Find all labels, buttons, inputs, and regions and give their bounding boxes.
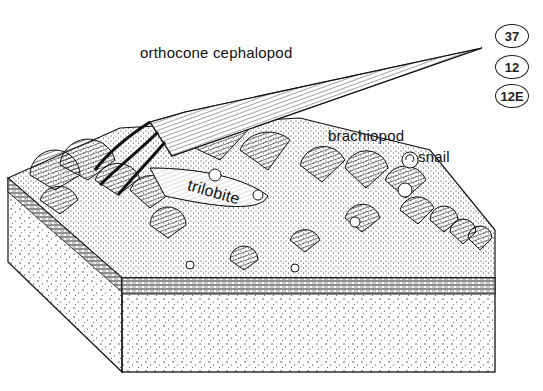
badge-12: 12 (495, 55, 529, 79)
badge-37: 37 (495, 24, 529, 48)
label-orthocone-cephalopod: orthocone cephalopod (140, 44, 292, 61)
label-brachiopod: brachiopod (328, 127, 404, 144)
label-snail: snail (418, 148, 450, 165)
badge-12e: 12E (495, 84, 529, 108)
